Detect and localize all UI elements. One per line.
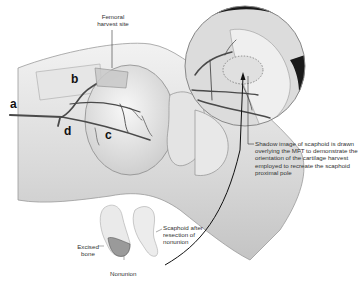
nonunion-label: Nonunion [110, 270, 137, 277]
vessel-label-a: a [10, 98, 17, 110]
scaphoid-after-shape [133, 207, 158, 257]
shadow-image-annotation: Shadow image of scaphoid is drawn overly… [255, 140, 360, 176]
shadow-line-3: orientation of the cartilage harvest [255, 154, 360, 161]
vessel-label-d: d [64, 125, 71, 137]
shadow-line-5: proximal pole [255, 169, 360, 176]
excised-bone-label: Excised bone [76, 243, 100, 257]
femoral-harvest-site-label: Femoral harvest site [96, 13, 130, 27]
femoral-harvest-line-1: Femoral [96, 13, 130, 20]
femoral-harvest-line-2: harvest site [96, 20, 130, 27]
scaphoid-after-line-1: Scaphoid after [163, 224, 213, 231]
magnified-inset [185, 0, 305, 126]
scaphoid-after-line-3: nonunion [163, 238, 213, 245]
excised-bone-line-2: bone [76, 250, 100, 257]
scaphoid-after-line-2: resection of [163, 231, 213, 238]
vessel-label-b: b [71, 73, 78, 85]
shadow-line-1: Shadow image of scaphoid is drawn [255, 140, 360, 147]
shadow-line-2: overlying the MFT to demonstrate the [255, 147, 360, 154]
excised-bone-line-1: Excised [76, 243, 100, 250]
shadow-line-4: employed to recreate the scaphoid [255, 162, 360, 169]
scaphoid-after-label: Scaphoid after resection of nonunion [163, 224, 213, 246]
vessel-label-c: c [105, 129, 112, 141]
